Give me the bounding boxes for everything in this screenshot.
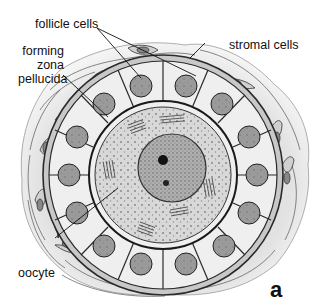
follicle-diagram: follicle cells forming zona pellucida st…: [0, 0, 323, 307]
oocyte: [95, 107, 231, 243]
label-pellucida: pellucida: [18, 72, 64, 86]
label-zona: zona: [18, 58, 64, 72]
panel-letter: a: [270, 277, 282, 303]
label-stromal-cells: stromal cells: [229, 38, 298, 52]
label-oocyte: oocyte: [18, 266, 55, 280]
label-follicle-cells: follicle cells: [35, 17, 98, 31]
label-forming: forming: [18, 44, 64, 58]
label-forming-zona-pellucida: forming zona pellucida: [18, 44, 64, 86]
oocyte-nucleus: [138, 134, 206, 202]
